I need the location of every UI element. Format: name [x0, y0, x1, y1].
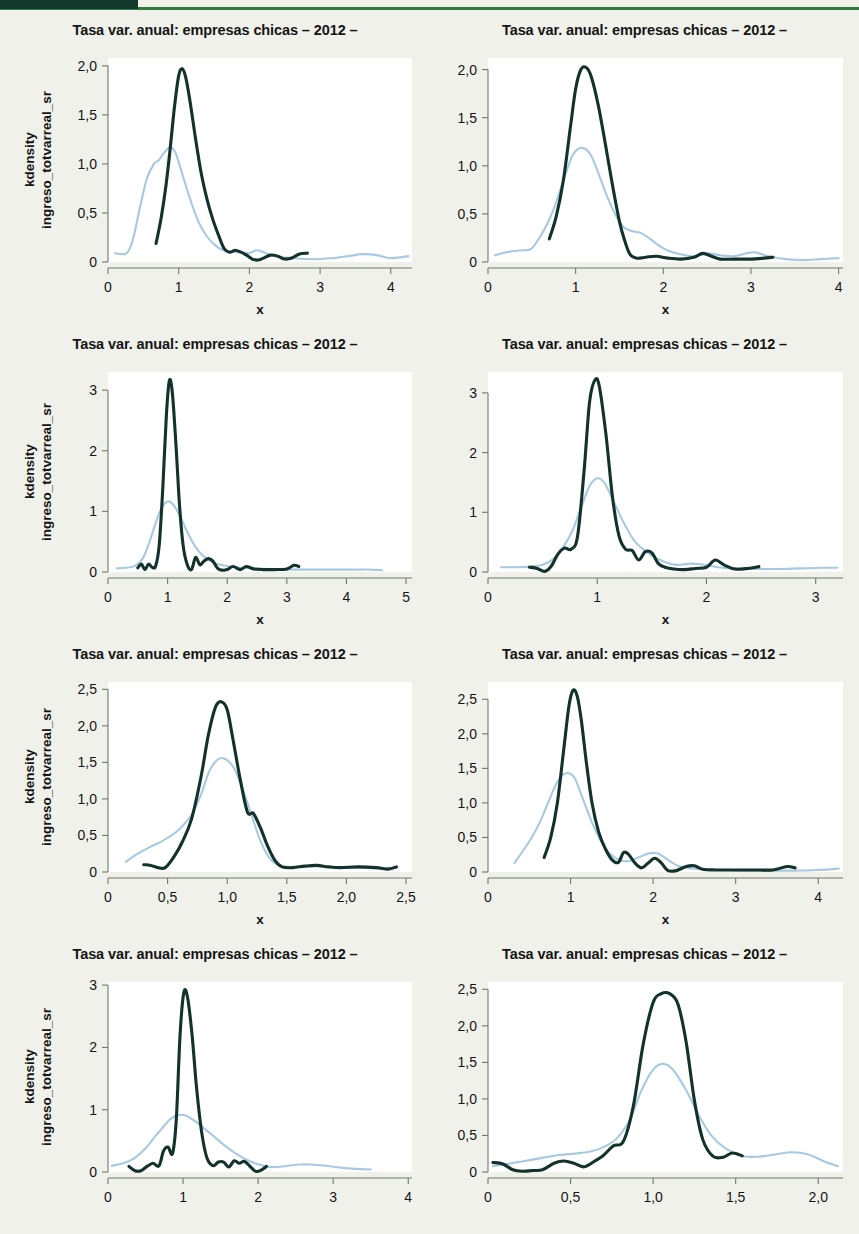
x-tick-label: 3	[812, 589, 820, 605]
x-tick-label: 2,5	[396, 889, 416, 905]
y-tick-label: 1,0	[458, 1091, 478, 1107]
x-tick-label: 0	[484, 279, 492, 295]
x-tick-label: 1	[175, 279, 183, 295]
x-axis-label: x	[108, 302, 412, 317]
x-tick-label: 1,5	[726, 1189, 746, 1205]
panel-title: Tasa var. anual: empresas chicas – 2012 …	[0, 946, 430, 962]
x-tick-label: 2,0	[808, 1189, 828, 1205]
y-tick-label: 1,5	[458, 1054, 478, 1070]
x-tick-label: 5	[402, 589, 410, 605]
y-axis-label: kdensity ingreso_totvarreal_sr	[22, 52, 56, 268]
x-tick-label: 1	[572, 279, 580, 295]
chart-panel: Tasa var. anual: empresas chicas – 2012 …	[430, 10, 859, 324]
plot-background	[488, 372, 843, 572]
x-tick-label: 4	[343, 589, 351, 605]
x-tick-label: 2	[659, 279, 667, 295]
x-tick-label: 0,5	[158, 889, 178, 905]
plot-area: 0123012345	[108, 372, 412, 602]
y-tick-label: 3	[469, 385, 477, 401]
y-axis-label: kdensity ingreso_totvarreal_sr	[22, 976, 56, 1178]
x-axis-label: x	[108, 612, 412, 627]
x-tick-label: 3	[329, 1189, 337, 1205]
plot-background	[108, 682, 412, 872]
x-axis-label: x	[488, 912, 843, 927]
plot-area: 00,51,01,52,02,500,51,01,52,02,5	[108, 682, 412, 902]
x-tick-label: 2	[703, 589, 711, 605]
x-axis-label: x	[488, 612, 843, 627]
x-tick-label: 2	[223, 589, 231, 605]
y-tick-label: 2,0	[458, 62, 478, 78]
x-tick-label: 3	[732, 889, 740, 905]
plot-background	[488, 682, 843, 872]
chart-panel: Tasa var. anual: empresas chicas – 2012 …	[0, 324, 430, 634]
y-tick-label: 2,5	[78, 681, 98, 697]
y-tick-label: 0,5	[78, 205, 98, 221]
y-tick-label: 0,5	[458, 1127, 478, 1143]
y-tick-label: 3	[89, 382, 97, 398]
x-tick-label: 4	[835, 279, 843, 295]
plot-background	[108, 982, 412, 1172]
plot-background	[108, 372, 412, 572]
x-tick-label: 3	[283, 589, 291, 605]
x-tick-label: 0,5	[561, 1189, 581, 1205]
x-axis-label: x	[488, 302, 843, 317]
chart-panel: Tasa var. anual: empresas chicas – 2012 …	[0, 934, 430, 1234]
x-tick-label: 1,0	[643, 1189, 663, 1205]
x-tick-label: 3	[747, 279, 755, 295]
y-tick-label: 2	[89, 1039, 97, 1055]
y-tick-label: 1,5	[78, 754, 98, 770]
y-tick-label: 1,5	[458, 760, 478, 776]
y-tick-label: 0	[89, 1164, 97, 1180]
y-tick-label: 1,0	[458, 158, 478, 174]
y-tick-label: 2	[469, 445, 477, 461]
plot-area: 012301234	[108, 982, 412, 1202]
x-tick-label: 1,0	[217, 889, 237, 905]
plot-area: 00,51,01,52,02,501234	[488, 682, 843, 902]
figure-page: Tasa var. anual: empresas chicas – 2012 …	[0, 0, 859, 1234]
plot-background	[488, 982, 843, 1172]
y-tick-label: 2,0	[78, 58, 98, 74]
y-tick-label: 0,5	[458, 829, 478, 845]
plot-area: 01230123	[488, 372, 843, 602]
panel-grid: Tasa var. anual: empresas chicas – 2012 …	[0, 10, 859, 1234]
y-tick-label: 2,5	[458, 691, 478, 707]
plot-background	[488, 58, 843, 262]
x-tick-label: 1	[164, 589, 172, 605]
y-tick-label: 2,5	[458, 981, 478, 997]
x-tick-label: 4	[814, 889, 822, 905]
x-tick-label: 1	[179, 1189, 187, 1205]
y-tick-label: 1,0	[78, 156, 98, 172]
panel-title: Tasa var. anual: empresas chicas – 2012 …	[430, 336, 859, 352]
x-tick-label: 1	[593, 589, 601, 605]
chart-panel: Tasa var. anual: empresas chicas – 2012 …	[430, 324, 859, 634]
y-tick-label: 3	[89, 977, 97, 993]
x-tick-label: 2	[254, 1189, 262, 1205]
x-tick-label: 2	[649, 889, 657, 905]
x-tick-label: 0	[104, 889, 112, 905]
x-tick-label: 0	[484, 1189, 492, 1205]
x-axis-label: x	[108, 912, 412, 927]
y-tick-label: 1,5	[78, 107, 98, 123]
chart-panel: Tasa var. anual: empresas chicas – 2012 …	[430, 934, 859, 1234]
y-tick-label: 0,5	[78, 827, 98, 843]
chart-panel: Tasa var. anual: empresas chicas – 2012 …	[0, 10, 430, 324]
plot-area: 00,51,01,52,001234	[108, 58, 412, 292]
y-tick-label: 0	[89, 564, 97, 580]
y-tick-label: 1	[89, 503, 97, 519]
x-tick-label: 4	[387, 279, 395, 295]
y-tick-label: 2	[89, 443, 97, 459]
y-tick-label: 0	[469, 564, 477, 580]
y-tick-label: 1,0	[78, 791, 98, 807]
x-tick-label: 0	[484, 889, 492, 905]
x-tick-label: 3	[316, 279, 324, 295]
y-tick-label: 0	[89, 254, 97, 270]
x-tick-label: 0	[484, 589, 492, 605]
y-tick-label: 0	[469, 864, 477, 880]
x-tick-label: 0	[104, 279, 112, 295]
y-tick-label: 0	[89, 864, 97, 880]
panel-title: Tasa var. anual: empresas chicas – 2012 …	[430, 646, 859, 662]
plot-area: 00,51,01,52,02,500,51,01,52,0	[488, 982, 843, 1202]
plot-background	[108, 58, 412, 262]
y-tick-label: 1,5	[458, 110, 478, 126]
x-tick-label: 2,0	[337, 889, 357, 905]
